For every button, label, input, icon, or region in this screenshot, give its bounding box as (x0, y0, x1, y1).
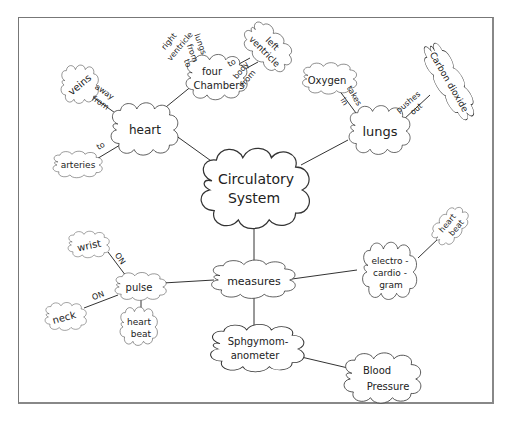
node-neck: neck (45, 302, 86, 330)
svg-text:Pressure: Pressure (367, 381, 410, 392)
svg-text:Chambers: Chambers (193, 80, 244, 91)
node-blood-pressure: Blood Pressure (344, 353, 421, 403)
svg-text:four: four (202, 66, 223, 77)
link-label-pushes-out: pushes out (395, 89, 425, 116)
svg-text:pulse: pulse (126, 282, 153, 293)
svg-text:heart: heart (127, 317, 151, 327)
edge-circ-heart (175, 135, 214, 163)
link-label-away-from: away from (90, 82, 116, 112)
svg-text:to: to (95, 140, 107, 152)
edge-circ-lungs (301, 140, 348, 165)
svg-text:Oxygen: Oxygen (308, 75, 347, 86)
edge-measures-ecg (292, 270, 357, 279)
svg-text:ON: ON (113, 251, 127, 266)
node-wrist: wrist (68, 231, 109, 258)
link-label-on-wrist: ON (113, 251, 127, 266)
node-pulse: pulse (115, 272, 166, 300)
svg-text:Blood: Blood (363, 365, 391, 376)
node-carbon-dioxide: Carbon dioxide (417, 38, 482, 124)
concept-map: Circulatory System heart four Chambers l… (0, 0, 513, 421)
svg-text:measures: measures (227, 275, 281, 288)
edge-measures-pulse (163, 280, 214, 283)
edge-sphyg-bp (297, 356, 348, 368)
edge-ecg-heartbeat (418, 237, 440, 258)
svg-text:Circulatory: Circulatory (218, 171, 294, 187)
node-arteries: arteries (53, 151, 102, 178)
node-pulse-heart-beat: heart beat (120, 307, 157, 345)
svg-text:electro -: electro - (371, 256, 408, 266)
node-heart: heart (111, 103, 178, 155)
svg-text:System: System (228, 190, 280, 206)
svg-text:beat: beat (131, 329, 152, 339)
node-circulatory-system: Circulatory System (201, 148, 309, 228)
node-ecg: electro - cardio - gram (363, 242, 417, 299)
svg-text:anometer: anometer (231, 350, 281, 361)
node-measures: measures (212, 260, 296, 298)
node-sphygmomanometer: Sphgymom- anometer (211, 324, 304, 371)
svg-text:in: in (338, 96, 349, 107)
svg-text:heart: heart (129, 123, 161, 137)
link-label-to-arteries: to (95, 140, 107, 152)
svg-text:arteries: arteries (61, 160, 96, 170)
svg-text:Sphgymom-: Sphgymom- (228, 336, 289, 347)
svg-text:lungs: lungs (362, 124, 397, 139)
svg-text:gram: gram (379, 280, 403, 290)
svg-text:cardio -: cardio - (373, 268, 407, 278)
